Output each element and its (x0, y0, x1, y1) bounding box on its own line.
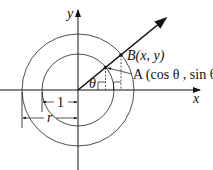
point-b-label: B(x, y) (127, 48, 165, 64)
pointer-a (108, 68, 132, 74)
point-a-label: A (cos θ , sin θ) (133, 67, 213, 83)
radius-1-label: 1 (57, 95, 64, 110)
y-axis-label: y (65, 6, 74, 21)
radius-r-label: r (47, 110, 53, 125)
unit-circle-diagram: y x B(x, y) A (cos θ , sin θ) θ 1 r (0, 0, 213, 170)
x-axis-label: x (192, 91, 200, 106)
right-angle-b (114, 82, 122, 90)
diagram-canvas: y x B(x, y) A (cos θ , sin θ) θ 1 r (0, 0, 213, 170)
angle-label: θ (89, 76, 96, 91)
right-angle-a (98, 82, 106, 90)
